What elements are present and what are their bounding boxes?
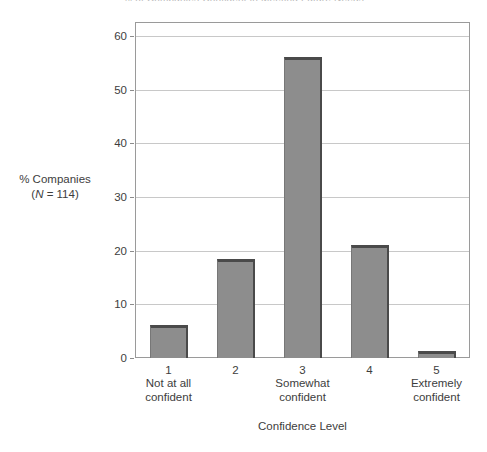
y-axis-tick-mark — [130, 358, 134, 359]
y-axis-tick-mark — [130, 197, 134, 198]
x-axis-tick-group: 5Extremely confident — [389, 363, 485, 404]
y-axis-tick-mark — [130, 90, 134, 91]
x-axis-title: Confidence Level — [135, 420, 470, 432]
x-axis-tick-number: 5 — [389, 363, 485, 377]
bar — [418, 351, 456, 358]
y-axis-label: % Companies (N = 114) — [6, 172, 104, 202]
y-axis-tick-mark — [130, 36, 134, 37]
chart-page: { "chart_data": { "type": "bar", "title"… — [0, 0, 487, 452]
y-axis-tick-label: 40 — [97, 137, 127, 149]
y-axis-tick-label: 60 — [97, 30, 127, 42]
gridline — [136, 36, 469, 37]
y-axis-label-line1: % Companies — [6, 172, 104, 187]
bar — [150, 325, 188, 358]
y-axis-tick-label: 20 — [97, 245, 127, 257]
y-axis-label-line2: (N = 114) — [6, 187, 104, 202]
chart-title-clipped: % of Companies Confident in Meeting Futu… — [0, 0, 487, 1]
y-axis-tick-label: 50 — [97, 84, 127, 96]
x-axis-tick-description: Extremely confident — [389, 377, 485, 404]
bar — [284, 57, 322, 358]
y-axis-tick-mark — [130, 143, 134, 144]
y-axis-tick-mark — [130, 251, 134, 252]
y-axis-tick-label: 10 — [97, 298, 127, 310]
y-axis-label-n-value: = 114) — [43, 188, 78, 200]
bar — [217, 259, 255, 358]
x-axis-tick-description: Somewhat confident — [255, 377, 351, 404]
y-axis-tick-label: 30 — [97, 191, 127, 203]
x-axis-tick-description: Not at all confident — [121, 377, 217, 404]
y-axis-tick-mark — [130, 304, 134, 305]
bar — [351, 245, 389, 358]
